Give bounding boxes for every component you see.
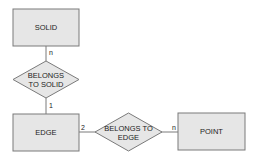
entity-edge-label: EDGE <box>35 128 56 137</box>
relationship-belongs-to-solid: BELONGS TO SOLID <box>13 61 79 98</box>
relationship-belongs-to-solid-line1: BELONGS <box>28 71 64 80</box>
entity-solid-label: SOLID <box>35 23 58 32</box>
relationship-belongs-to-solid-line2: TO SOLID <box>29 80 64 89</box>
er-diagram: SOLID BELONGS TO SOLID EDGE BELONGS TO E… <box>0 0 256 158</box>
relationship-belongs-to-edge-line1: BELONGS TO <box>104 124 153 133</box>
relationship-belongs-to-edge: BELONGS TO EDGE <box>95 113 162 151</box>
cardinality-point: n <box>172 124 176 131</box>
cardinality-edge-point: 2 <box>81 124 85 131</box>
entity-edge: EDGE <box>13 114 79 151</box>
cardinality-edge-solid: 1 <box>49 102 53 109</box>
entity-point-label: POINT <box>200 127 223 136</box>
entity-solid: SOLID <box>13 9 79 46</box>
relationship-belongs-to-edge-line2: EDGE <box>118 133 139 142</box>
cardinality-solid: n <box>49 49 53 56</box>
entity-point: POINT <box>178 113 245 150</box>
